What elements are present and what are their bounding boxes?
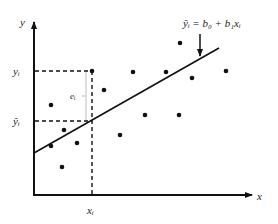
- data-point: [190, 76, 195, 81]
- data-point: [118, 133, 123, 138]
- data-point: [178, 41, 183, 46]
- data-point: [177, 113, 182, 118]
- axes: y x: [19, 16, 262, 202]
- data-point: [164, 70, 169, 75]
- data-point: [60, 165, 65, 170]
- regression-line: [34, 48, 219, 153]
- data-point: [143, 113, 148, 118]
- yi-label: yᵢ: [12, 65, 20, 77]
- regression-equation: ŷᵢ = b₀ + b₁xᵢ: [182, 17, 241, 29]
- data-point: [49, 144, 54, 149]
- data-points: [49, 41, 229, 170]
- data-point: [49, 103, 54, 108]
- data-point: [131, 70, 136, 75]
- data-point: [62, 128, 67, 133]
- residual-label: eᵢ: [70, 91, 76, 101]
- regression-diagram: y x eᵢ ŷᵢ = b₀ + b₁xᵢ yᵢ ŷᵢ xᵢ: [0, 0, 278, 224]
- residual-bracket: eᵢ: [70, 72, 86, 120]
- data-point: [224, 69, 229, 74]
- data-point: [90, 69, 95, 74]
- x-axis-label: x: [256, 190, 262, 202]
- guide-lines: [35, 71, 92, 195]
- xi-label: xᵢ: [86, 204, 94, 216]
- y-axis-label: y: [19, 16, 25, 28]
- data-point: [75, 141, 80, 146]
- data-point: [102, 88, 107, 93]
- yhat-label: ŷᵢ: [12, 115, 20, 127]
